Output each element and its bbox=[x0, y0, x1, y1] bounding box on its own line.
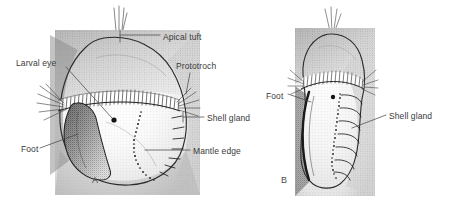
panel-letter-a: A bbox=[92, 175, 98, 185]
panel-letter-b: B bbox=[281, 175, 287, 185]
panel-b-drawing bbox=[288, 7, 378, 196]
label-foot-a: Foot bbox=[21, 144, 38, 154]
figure-container: Apical tuft Larval eye Prototroch Shell … bbox=[0, 0, 463, 207]
veliger-larva-illustration bbox=[0, 0, 463, 207]
label-mantle-edge: Mantle edge bbox=[193, 146, 241, 156]
label-apical-tuft: Apical tuft bbox=[163, 32, 201, 42]
larval-eye-dot-b bbox=[331, 95, 335, 99]
label-shell-gland-b: Shell gland bbox=[389, 111, 432, 121]
label-shell-gland-a: Shell gland bbox=[207, 113, 250, 123]
label-larval-eye: Larval eye bbox=[16, 58, 56, 68]
label-foot-b: Foot bbox=[266, 91, 283, 101]
label-prototroch: Prototroch bbox=[176, 61, 216, 71]
